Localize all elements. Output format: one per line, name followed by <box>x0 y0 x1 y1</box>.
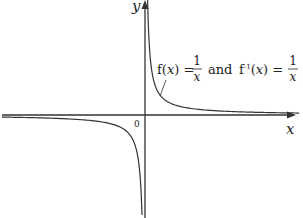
annotation-finv-lhs: f-1(x) = <box>239 62 283 77</box>
annotation-leader-line <box>160 80 166 96</box>
fraction2-denominator: x <box>290 70 297 84</box>
x-axis-label: x <box>286 120 295 138</box>
f-name: f( <box>157 62 167 77</box>
origin-label: 0 <box>134 119 140 129</box>
curve-branch-positive <box>148 0 300 113</box>
function-annotation: f(x) = 1 x and f-1(x) = 1 x <box>157 54 298 84</box>
finv-eq: ) = <box>263 62 283 77</box>
y-axis-label: y <box>131 0 141 15</box>
fraction1-denominator: x <box>194 70 201 84</box>
annotation-f-lhs: f(x) = <box>157 62 194 77</box>
annotation-and: and <box>208 62 232 77</box>
fraction2-numerator: 1 <box>289 54 297 68</box>
function-graph: x y 0 f(x) = 1 x and f-1(x) = 1 x <box>0 0 303 218</box>
f-eq: ) = <box>174 62 194 77</box>
fraction1-numerator: 1 <box>193 54 201 68</box>
curve-branch-negative <box>2 117 142 215</box>
finv-superscript: -1 <box>244 63 251 71</box>
